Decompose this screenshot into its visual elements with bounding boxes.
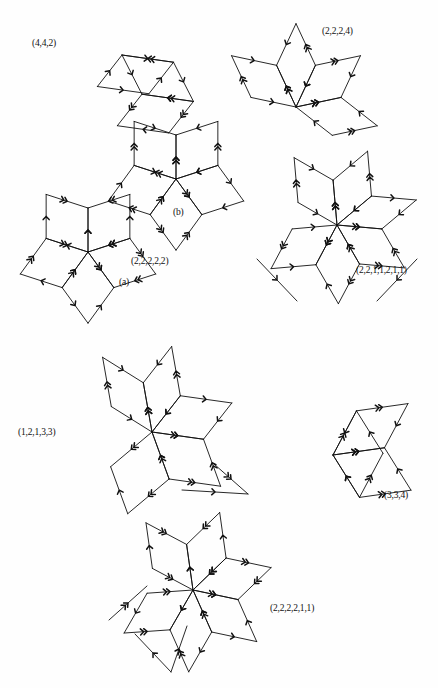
- figure-label-2224: (2,2,2,4): [322, 27, 353, 37]
- figure-label-a: (a): [119, 278, 129, 288]
- figure-label-12133: (1,2,1,3,3): [18, 428, 55, 438]
- figure-label-334: (3,3,4): [384, 491, 408, 501]
- figure-label-b: (b): [173, 208, 183, 218]
- figure-label-222211: (2,2,2,2,1,1): [270, 604, 314, 614]
- figure-label-442: (4,4,2): [32, 39, 56, 49]
- figure-sheet: (4,4,2) (2,2,2,4) (b) (2,2,2,2,2) (a) (2…: [0, 0, 438, 688]
- figure-label-22222: (2,2,2,2,2): [131, 257, 168, 267]
- rhombic-tilings-diagram: [0, 0, 438, 688]
- figure-label-2211211: (2,2,1,1,2,1,1): [356, 266, 407, 276]
